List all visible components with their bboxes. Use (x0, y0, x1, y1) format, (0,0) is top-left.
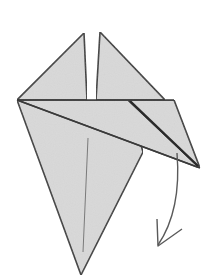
origami-diagram (0, 0, 222, 280)
fold-down-arrow (157, 153, 182, 246)
right-upper-flap (96, 32, 165, 100)
left-upper-flap (17, 33, 87, 100)
diagram-canvas (0, 0, 222, 280)
